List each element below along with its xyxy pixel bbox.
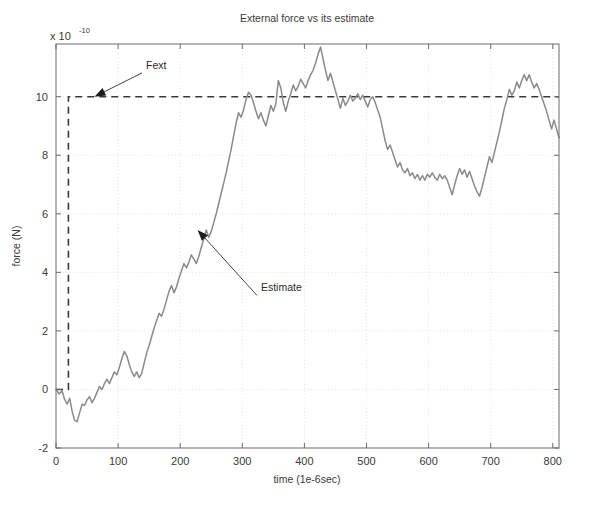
y-tick-label: 10: [36, 91, 48, 103]
x-tick-label: 0: [53, 455, 59, 467]
y-tick-label: 8: [42, 149, 48, 161]
y-exponent-power: -10: [79, 26, 90, 35]
x-tick-label: 600: [419, 455, 437, 467]
x-tick-label: 400: [295, 455, 313, 467]
x-tick-label: 200: [171, 455, 189, 467]
chart-svg: 0100200300400500600700800-20246810 x 10 …: [0, 0, 591, 505]
x-axis-label: time (1e-6sec): [273, 473, 340, 485]
x-tick-label: 100: [109, 455, 127, 467]
y-axis-label: force (N): [10, 226, 22, 267]
x-tick-label: 300: [233, 455, 251, 467]
x-tick-label: 500: [357, 455, 375, 467]
y-tick-label: 2: [42, 325, 48, 337]
chart-background: [0, 0, 591, 505]
estimate-annotation-label: Estimate: [261, 281, 302, 293]
y-tick-label: 6: [42, 208, 48, 220]
y-tick-label: 0: [42, 383, 48, 395]
y-exponent-prefix: x 10: [50, 30, 71, 42]
x-tick-label: 800: [544, 455, 562, 467]
y-tick-label: -2: [38, 442, 48, 454]
fext-annotation-label: Fext: [146, 59, 167, 71]
y-tick-label: 4: [42, 266, 48, 278]
x-tick-label: 700: [482, 455, 500, 467]
chart-figure: 0100200300400500600700800-20246810 x 10 …: [0, 0, 591, 505]
chart-title: External force vs its estimate: [240, 12, 374, 24]
